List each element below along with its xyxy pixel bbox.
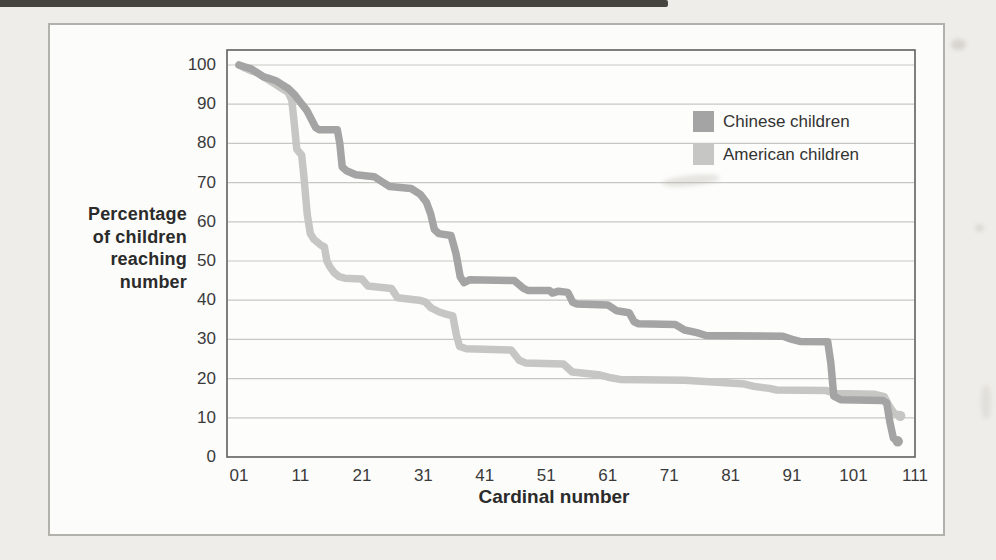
legend-swatch-chinese [693,111,714,132]
scan-artifact-top-rule [0,0,668,7]
x-tick-label: 51 [516,466,576,486]
x-tick-label: 81 [701,466,761,486]
scan-artifact-mark [951,39,966,50]
y-tick-label: 30 [156,329,216,349]
x-axis-title: Cardinal number [454,486,654,508]
y-tick-label: 10 [156,408,216,428]
x-tick-label: 91 [762,466,822,486]
scan-artifact-mark [981,385,991,419]
y-tick-label: 60 [156,212,216,232]
x-tick-label: 31 [393,466,453,486]
y-tick-label: 20 [156,369,216,389]
legend-label-american: American children [714,145,859,165]
y-tick-label: 40 [156,290,216,310]
legend-item-american-children: American children [693,144,859,165]
x-tick-label: 111 [885,466,945,486]
x-tick-label: 01 [209,466,269,486]
x-tick-label: 11 [270,466,330,486]
y-tick-label: 100 [156,55,216,75]
y-tick-label: 50 [156,251,216,271]
legend-label-chinese: Chinese children [714,112,850,132]
scanned-book-page: Percentage of children reaching number C… [0,0,996,560]
x-tick-label: 21 [332,466,392,486]
x-tick-label: 61 [578,466,638,486]
legend-item-chinese-children: Chinese children [693,111,859,132]
scan-artifact-mark [975,224,984,232]
chart-legend: Chinese children American children [693,111,859,177]
y-tick-label: 70 [156,173,216,193]
figure-frame: Percentage of children reaching number C… [48,23,945,536]
x-tick-label: 71 [639,466,699,486]
legend-swatch-american [693,144,714,165]
y-tick-label: 0 [156,447,216,467]
x-tick-label: 41 [455,466,515,486]
y-tick-label: 90 [156,94,216,114]
x-tick-label: 101 [824,466,884,486]
y-tick-label: 80 [156,133,216,153]
